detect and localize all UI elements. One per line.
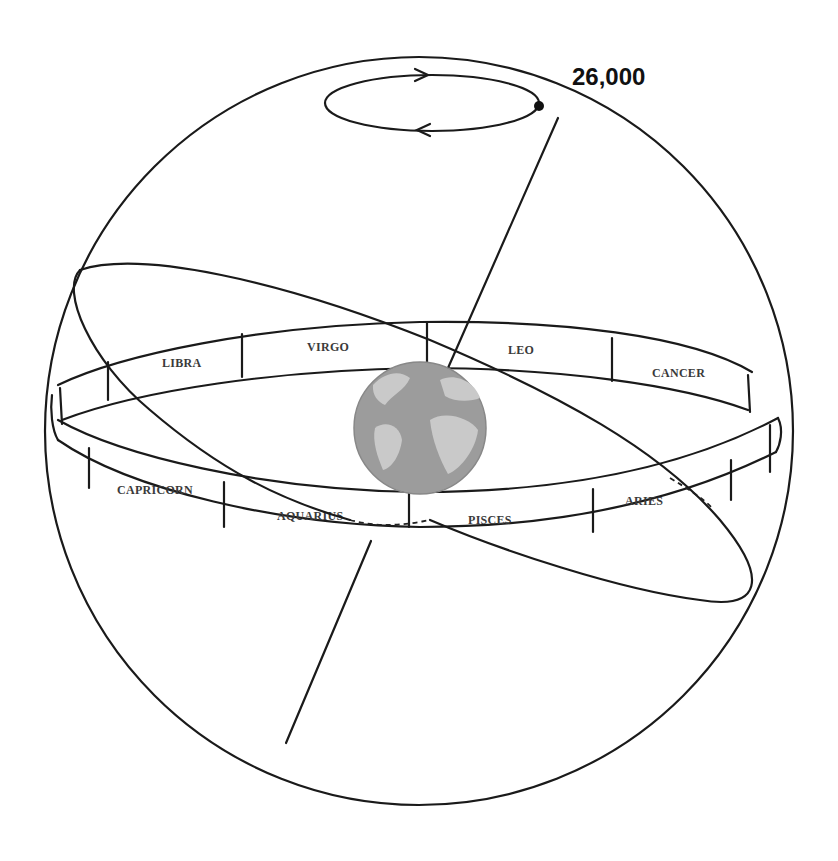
precession-orbit <box>325 69 544 136</box>
sign-leo: LEO <box>508 343 534 357</box>
axis-upper <box>448 118 558 368</box>
sign-aries: ARIES <box>625 494 663 508</box>
sign-pisces: PISCES <box>468 513 512 527</box>
sign-virgo: VIRGO <box>307 340 349 354</box>
axis-lower <box>286 541 371 743</box>
pole-marker <box>534 101 544 111</box>
earth-globe <box>354 362 486 494</box>
sign-cancer: CANCER <box>652 366 705 380</box>
precession-years-label: 26,000 <box>572 63 645 90</box>
sign-libra: LIBRA <box>162 356 202 370</box>
sign-capricorn: CAPRICORN <box>117 483 193 497</box>
precession-diagram: LIBRA VIRGO LEO CANCER CAPRICORN AQUARIU… <box>0 0 838 861</box>
